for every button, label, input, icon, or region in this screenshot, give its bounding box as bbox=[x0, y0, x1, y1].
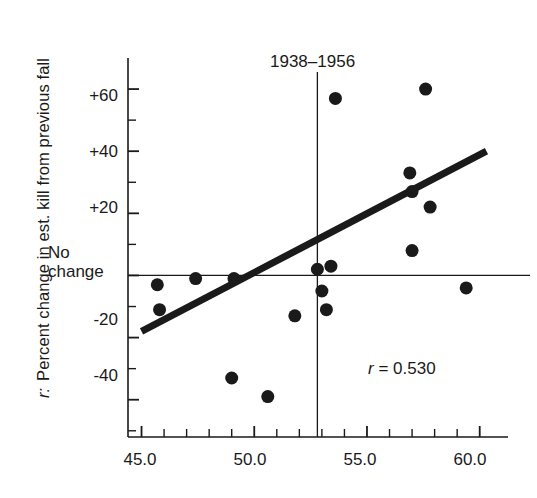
data-point bbox=[406, 244, 419, 257]
data-point bbox=[419, 83, 432, 96]
data-point bbox=[151, 278, 164, 291]
data-point bbox=[189, 272, 202, 285]
data-point bbox=[320, 303, 333, 316]
data-point bbox=[153, 303, 166, 316]
data-point bbox=[329, 92, 342, 105]
data-point bbox=[227, 272, 240, 285]
trend-line bbox=[142, 151, 487, 331]
regression-line-group bbox=[142, 151, 487, 331]
reference-lines-group bbox=[128, 72, 530, 437]
data-point bbox=[403, 166, 416, 179]
data-point bbox=[288, 309, 301, 322]
data-point bbox=[406, 185, 419, 198]
data-point bbox=[460, 281, 473, 294]
data-point bbox=[315, 284, 328, 297]
data-point bbox=[311, 263, 324, 276]
data-point bbox=[324, 260, 337, 273]
data-point bbox=[225, 371, 238, 384]
plot-canvas bbox=[0, 0, 537, 498]
data-point bbox=[424, 201, 437, 214]
data-point bbox=[261, 390, 274, 403]
scatter-plot-figure: r:Percent change in est. kill from previ… bbox=[0, 0, 537, 498]
